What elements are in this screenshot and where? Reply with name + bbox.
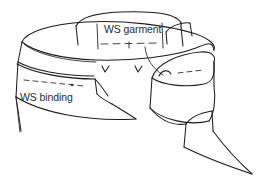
pin-dot xyxy=(71,84,73,86)
binding-fold-detail xyxy=(159,70,203,76)
label-ws-garment: WS garment xyxy=(104,23,162,35)
illustration-canvas: WS garment WS binding xyxy=(0,0,275,183)
garment-stitch-lines xyxy=(101,42,158,48)
notch-marks xyxy=(102,66,142,72)
leader-line xyxy=(145,47,163,75)
sewing-diagram: WS garment WS binding xyxy=(0,0,275,183)
label-ws-binding: WS binding xyxy=(20,91,73,103)
binding-stitch-lines xyxy=(24,80,84,86)
